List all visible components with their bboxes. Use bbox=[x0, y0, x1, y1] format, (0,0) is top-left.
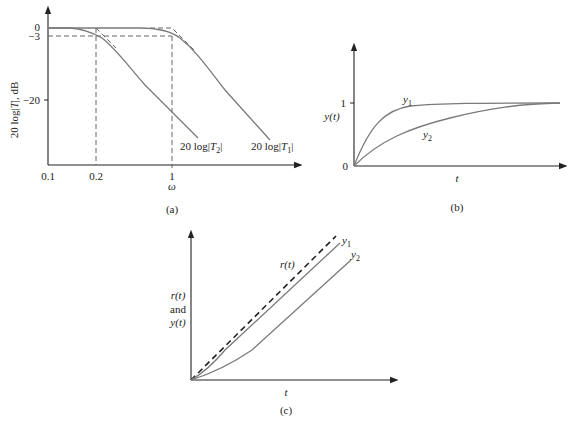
caption-a: (a) bbox=[166, 203, 179, 216]
ytick-minus3: −3 bbox=[28, 30, 40, 42]
label-T2: 20 log|T2| bbox=[180, 140, 222, 155]
label-y2-step: y2 bbox=[422, 128, 432, 143]
label-r-ramp: r(t) bbox=[280, 258, 295, 271]
panel-b: 1 0 y(t) t y1 y2 (b) bbox=[323, 47, 563, 214]
panel-c-xlabel: t bbox=[284, 386, 288, 398]
ytick-1-label: 1 bbox=[341, 97, 347, 109]
panel-a-guides bbox=[48, 28, 196, 168]
curve-y2-step bbox=[354, 103, 560, 166]
xtick-0.1: 0.1 bbox=[41, 170, 55, 182]
curve-T2 bbox=[48, 28, 198, 138]
ytick-0-label: 0 bbox=[343, 160, 349, 172]
panel-c-ylabel-line3: y(t) bbox=[169, 316, 186, 329]
panel-c-ylabel-line1: r(t) bbox=[171, 289, 186, 302]
panel-a-ylabel: 20 log|T|, dB bbox=[8, 82, 20, 139]
ytick-minus20: −20 bbox=[23, 94, 41, 106]
caption-c: (c) bbox=[280, 404, 293, 417]
label-T1: 20 log|T1| bbox=[251, 140, 293, 155]
caption-b: (b) bbox=[451, 201, 464, 214]
panel-c: r(t) y1 y2 r(t) and y(t) t (c) bbox=[169, 234, 394, 417]
ramp-input-r bbox=[191, 236, 336, 380]
panel-a-xlabel: ω bbox=[168, 180, 176, 192]
panel-b-xlabel: t bbox=[455, 172, 459, 184]
xtick-0.2: 0.2 bbox=[89, 170, 103, 182]
panel-a: 0 −3 −20 0.1 0.2 1 20 log|T|, dB ω 20 lo… bbox=[8, 10, 298, 216]
label-y1-ramp: y1 bbox=[341, 234, 351, 249]
curve-y1-step bbox=[354, 103, 560, 166]
curve-T1 bbox=[48, 28, 270, 140]
curve-y2-ramp bbox=[191, 260, 351, 380]
panel-b-ylabel: y(t) bbox=[323, 110, 340, 123]
panel-c-ylabel-line2: and bbox=[170, 303, 186, 315]
figure-canvas: 0 −3 −20 0.1 0.2 1 20 log|T|, dB ω 20 lo… bbox=[0, 0, 568, 426]
curve-y1-ramp bbox=[191, 243, 340, 380]
label-y1-step: y1 bbox=[402, 93, 412, 108]
label-y2-ramp: y2 bbox=[350, 248, 360, 263]
